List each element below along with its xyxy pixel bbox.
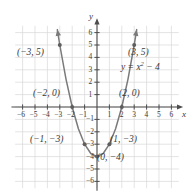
- y-tick--6: −6: [86, 177, 94, 185]
- x-tick-3: 3: [132, 111, 136, 119]
- x-tick--6: −6: [17, 111, 25, 119]
- point-label-0-neg4: (0, −4): [97, 153, 124, 163]
- y-tick-1: 1: [89, 91, 93, 99]
- equation-annotation: y = x2 − 4: [121, 63, 160, 73]
- y-tick--2: −2: [86, 128, 94, 136]
- y-tick-3: 3: [89, 66, 93, 74]
- x-tick--5: −5: [30, 111, 38, 119]
- x-tick-2: 2: [120, 111, 124, 119]
- x-tick--4: −4: [42, 111, 50, 119]
- coordinate-plane-svg: [0, 0, 195, 196]
- y-axis-label: y: [89, 12, 93, 21]
- x-tick-5: 5: [157, 111, 161, 119]
- point-label-3-5: (3, 5): [128, 48, 149, 58]
- y-tick-2: 2: [89, 78, 93, 86]
- axes: [11, 18, 183, 190]
- y-tick--4: −4: [86, 153, 94, 161]
- y-tick-5: 5: [89, 41, 93, 49]
- y-tick--5: −5: [86, 165, 94, 173]
- x-tick-1: 1: [107, 111, 111, 119]
- y-tick-4: 4: [89, 53, 93, 61]
- x-tick-4: 4: [145, 111, 149, 119]
- point-label-neg2-0: (−2, 0): [33, 89, 60, 99]
- point-label-2-0: (2, 0): [119, 89, 140, 99]
- x-axis-label: x: [182, 110, 186, 119]
- point-label-neg3-5: (−3, 5): [17, 48, 44, 58]
- x-tick--3: −3: [54, 111, 62, 119]
- x-tick-6: 6: [169, 111, 173, 119]
- equation-tail: − 4: [144, 62, 160, 72]
- y-tick-6: 6: [89, 29, 93, 37]
- point-label-1-neg3: (1, −3): [110, 135, 137, 145]
- x-tick--2: −2: [67, 111, 75, 119]
- y-tick--1: −1: [86, 115, 94, 123]
- point-label-neg1-neg3: (−1, −3): [30, 135, 63, 145]
- y-tick--3: −3: [86, 140, 94, 148]
- equation-head: y = x: [121, 62, 141, 72]
- graph-figure: (−3, 5) (3, 5) (−2, 0) (2, 0) (−1, −3) (…: [0, 0, 195, 196]
